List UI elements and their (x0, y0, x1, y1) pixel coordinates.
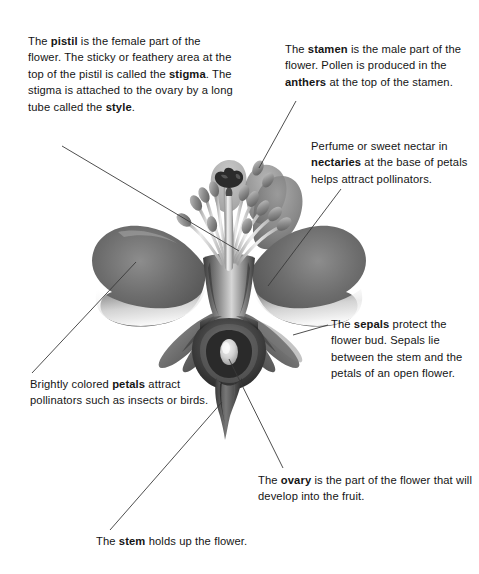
nectary-right (236, 316, 258, 330)
petal-left (92, 226, 206, 327)
term-emphasis: style (106, 101, 132, 113)
callout-text-run: Brightly colored (30, 378, 112, 390)
anthers (174, 159, 294, 235)
diagram-page: The pistil is the female part of the flo… (0, 0, 479, 574)
corolla-throat (203, 254, 255, 331)
callout-text-run: The (28, 35, 51, 47)
stigma (215, 168, 243, 188)
term-emphasis: anthers (285, 76, 326, 88)
sepals-callout: The sepals protect the flower bud. Sepal… (331, 316, 471, 382)
term-emphasis: stamen (308, 43, 348, 55)
callout-text-run: . (132, 101, 135, 113)
petals-callout: Brightly colored petals attract pollinat… (30, 376, 215, 409)
callout-text-run: holds up the flower. (145, 535, 247, 547)
nectary-callout: Perfume or sweet nectar in nectaries at … (311, 138, 476, 187)
leader-line-sepals (293, 325, 328, 335)
callout-text-run: Perfume or sweet nectar in (311, 140, 448, 152)
pistil-callout: The pistil is the female part of the flo… (28, 33, 234, 115)
stamen-filaments (186, 188, 282, 264)
pistil (215, 168, 243, 271)
leader-line-ovary (229, 359, 283, 468)
term-emphasis: ovary (281, 474, 311, 486)
back-petals (211, 160, 303, 249)
leader-line-pistil (62, 146, 239, 251)
term-emphasis: stigma (169, 68, 206, 80)
ovary-callout: The ovary is the part of the flower that… (258, 472, 473, 505)
term-emphasis: pistil (51, 35, 78, 47)
stem-callout: The stem holds up the flower. (96, 533, 326, 549)
leader-lines (32, 101, 341, 530)
leader-line-petals (32, 262, 136, 373)
leader-line-stamen (259, 101, 296, 168)
callout-text-run: at the top of the stamen. (326, 76, 453, 88)
term-emphasis: petals (112, 378, 145, 390)
term-emphasis: nectaries (311, 156, 361, 168)
ovule (220, 339, 238, 365)
style (225, 196, 234, 271)
callout-text-run: The (258, 474, 281, 486)
sepals (159, 312, 303, 372)
leader-line-nectary (268, 189, 341, 286)
term-emphasis: sepals (354, 318, 390, 330)
nectary-left (200, 316, 222, 330)
petal-right (252, 226, 366, 327)
term-emphasis: stem (119, 535, 146, 547)
callout-text-run: The (285, 43, 308, 55)
callout-text-run: The (96, 535, 119, 547)
stem (215, 378, 242, 440)
callout-text-run: The (331, 318, 354, 330)
stamen-callout: The stamen is the male part of the flowe… (285, 41, 470, 90)
leader-line-stem (110, 402, 222, 530)
